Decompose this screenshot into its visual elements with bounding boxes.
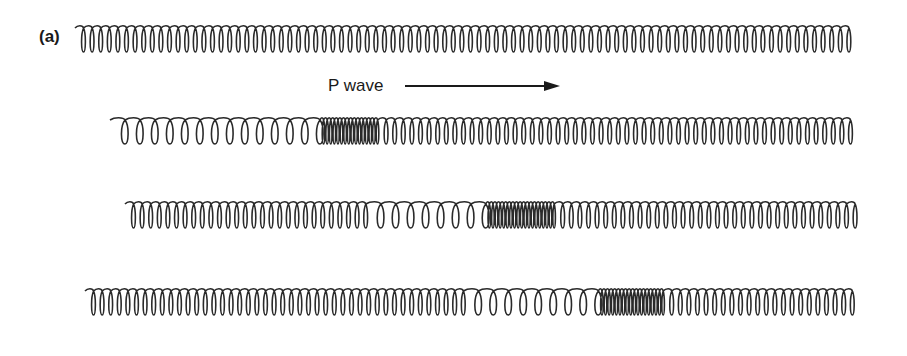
wave-label: P wave	[328, 76, 383, 96]
panel-label: (a)	[39, 27, 60, 47]
arrow-icon	[405, 81, 560, 91]
spring-drawing	[0, 0, 907, 356]
spring-row-4	[85, 289, 854, 315]
p-wave-spring-diagram: (a) P wave	[0, 0, 907, 356]
spring-row-2	[110, 118, 852, 144]
spring-row-3	[125, 202, 857, 228]
spring-row-1-rest	[75, 26, 851, 52]
